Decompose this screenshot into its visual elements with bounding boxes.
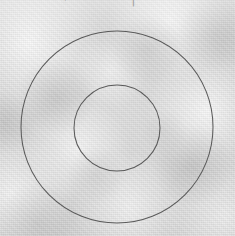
concentric-circles-figure	[0, 0, 235, 236]
top-fragment-4: ‵	[146, 0, 149, 2]
figure-canvas: — ⌐ ┐ ‵	[0, 0, 235, 236]
circles-svg	[0, 0, 235, 236]
top-fragment-2: ⌐	[64, 0, 72, 2]
top-fragment-3: ┐	[128, 0, 139, 2]
top-edge-fragments: — ⌐ ┐ ‵	[0, 0, 235, 9]
inner-circle	[74, 85, 160, 171]
outer-circle	[21, 31, 213, 223]
